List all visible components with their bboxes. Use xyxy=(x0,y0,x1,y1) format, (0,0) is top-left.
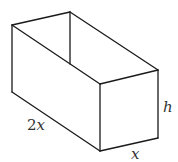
height-label: h xyxy=(163,98,173,116)
length-label: 2x xyxy=(27,116,46,134)
top-right-edge xyxy=(70,12,158,70)
top-back-edge xyxy=(12,12,70,25)
top-diagonal-edge xyxy=(12,25,100,84)
bottom-long-edge xyxy=(12,92,100,151)
width-label: x xyxy=(131,145,140,162)
front-bottom-edge xyxy=(100,138,158,151)
top-front-edge xyxy=(100,70,158,84)
box-diagram: 2x x h xyxy=(0,0,178,162)
